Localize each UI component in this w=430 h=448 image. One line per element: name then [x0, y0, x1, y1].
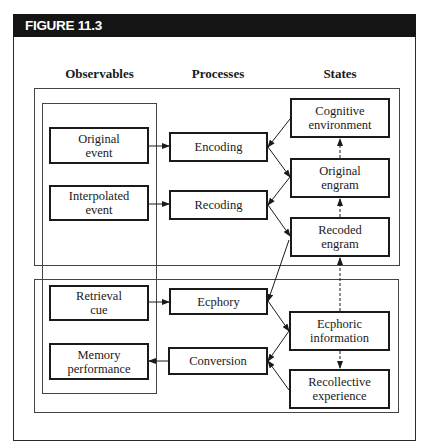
node-conversion: Conversion — [168, 347, 268, 375]
node-original-event: Original event — [49, 127, 149, 164]
node-cognitive-environment: Cognitive environment — [290, 98, 390, 138]
node-recoding: Recoding — [169, 190, 268, 220]
node-recollective-experience: Recollective experience — [289, 369, 390, 409]
column-heading-observables: Observables — [42, 66, 157, 82]
node-recoded-engram: Recoded engram — [290, 217, 390, 257]
node-original-engram: Original engram — [290, 158, 390, 198]
node-ecphory: Ecphory — [169, 288, 268, 315]
node-interpolated-event: Interpolated event — [49, 185, 149, 221]
node-encoding: Encoding — [169, 132, 268, 162]
node-retrieval-cue: Retrieval cue — [49, 285, 149, 321]
column-heading-processes: Processes — [168, 66, 268, 82]
node-memory-performance: Memory performance — [49, 343, 149, 380]
node-ecphoric-information: Ecphoric information — [289, 311, 390, 351]
figure-header: FIGURE 11.3 — [13, 14, 416, 37]
figure-label: FIGURE 11.3 — [25, 18, 102, 33]
column-heading-states: States — [290, 66, 390, 82]
